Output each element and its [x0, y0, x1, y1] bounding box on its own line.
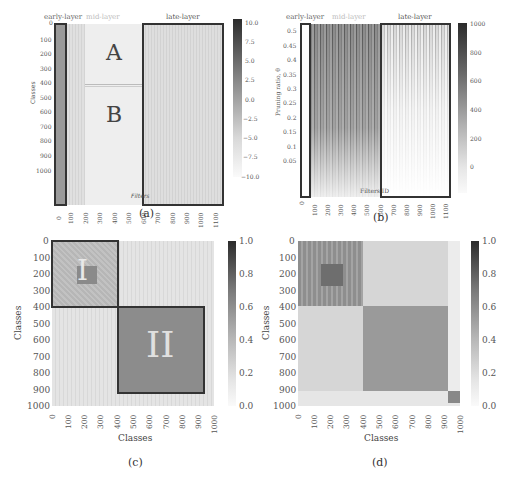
- xtick: 400: [350, 205, 357, 216]
- late-layer-label: late-layer: [166, 13, 200, 21]
- early-layer-box: [300, 23, 311, 198]
- late-layer-label: late-layer: [398, 13, 432, 21]
- ytick: 0: [289, 236, 295, 246]
- ytick: 0.25: [283, 99, 296, 106]
- ytick: 1000: [27, 401, 50, 411]
- ytick: 0.35: [283, 71, 296, 78]
- ylabel-a: Classes: [29, 81, 36, 104]
- xtick: 300: [342, 415, 351, 429]
- ytick: 600: [33, 335, 50, 345]
- heatmap-d: [298, 241, 460, 406]
- ytick: 800: [279, 368, 296, 378]
- xtick: 400: [113, 415, 122, 429]
- xtick: 100: [64, 415, 73, 429]
- region-i-label: I: [77, 254, 88, 287]
- xtick: 200: [80, 415, 89, 429]
- cbar-tick: −10.0: [241, 173, 259, 180]
- ytick: 300: [33, 286, 50, 296]
- colorbar-b: [458, 23, 467, 193]
- colorbar-c: [228, 241, 236, 406]
- block-3-strip-h: [298, 391, 460, 406]
- cbar-tick: 0.6: [239, 302, 253, 312]
- xtick: 400: [359, 415, 368, 429]
- ytick: 0.5: [287, 27, 297, 34]
- cbar-tick: −5.0: [243, 134, 258, 141]
- cbar-tick: 600: [470, 77, 481, 84]
- xtick: 1100: [442, 204, 449, 219]
- xtick: 0: [48, 414, 57, 419]
- ytick: 600: [279, 335, 296, 345]
- xtick: 700: [408, 415, 417, 429]
- xtick: 800: [424, 415, 433, 429]
- xtick: 500: [363, 205, 370, 216]
- xtick: 100: [310, 415, 319, 429]
- caption-c: (c): [128, 456, 143, 469]
- ytick: 500: [40, 94, 51, 101]
- ytick: 300: [40, 65, 51, 72]
- region-ii-label: II: [146, 324, 174, 365]
- ytick: 400: [279, 302, 296, 312]
- xtick: 300: [96, 415, 105, 429]
- xtick: 200: [82, 213, 89, 224]
- ytick: 700: [40, 123, 51, 130]
- cbar-tick: 1.0: [239, 236, 253, 246]
- cbar-tick: 0.0: [482, 401, 496, 411]
- xtick: 1100: [212, 213, 219, 228]
- ytick: 0: [43, 236, 49, 246]
- ytick: 0.3: [287, 85, 297, 92]
- xtick: 400: [111, 213, 118, 224]
- cbar-tick: 0.0: [239, 401, 253, 411]
- caption-b: (b): [373, 211, 389, 224]
- ytick: 700: [279, 352, 296, 362]
- xtick: 200: [324, 205, 331, 216]
- block-3-fill: [448, 391, 460, 403]
- colorbar-d: [471, 241, 479, 406]
- xtick: 500: [129, 415, 138, 429]
- region-b-label: B: [106, 102, 122, 127]
- xtick: 700: [162, 415, 171, 429]
- ytick: 0: [49, 19, 53, 26]
- cbar-tick: −2.5: [243, 115, 258, 122]
- late-layer-box: [380, 23, 451, 198]
- block-3-strip-v: [448, 241, 460, 406]
- ytick: 0.4: [287, 56, 297, 63]
- xtick: 600: [391, 415, 400, 429]
- xtick: 900: [440, 415, 449, 429]
- mid-layer-label: mid-layer: [86, 13, 120, 21]
- cbar-tick: 800: [470, 49, 481, 56]
- xtick: 1000: [210, 415, 219, 434]
- cbar-tick: 7.5: [245, 38, 255, 45]
- xtick: 600: [145, 415, 154, 429]
- ytick: 200: [33, 269, 50, 279]
- ytick: 500: [279, 319, 296, 329]
- xtick: 1000: [197, 213, 204, 228]
- cbar-tick: 5.0: [245, 57, 255, 64]
- region-a-label: A: [106, 40, 122, 65]
- ytick: 0.2: [287, 114, 297, 121]
- xlabel-c: Classes: [118, 433, 152, 443]
- cbar-tick: 1000: [470, 20, 485, 27]
- xtick: 100: [311, 205, 318, 216]
- ytick: 1000: [273, 401, 296, 411]
- cbar-tick: 0.4: [239, 335, 253, 345]
- cbar-tick: 0.0: [245, 96, 255, 103]
- offdiag-top: [363, 241, 448, 306]
- xtick: 1000: [456, 415, 465, 434]
- cbar-tick: 0.8: [482, 269, 496, 279]
- xtick: 300: [337, 205, 344, 216]
- ytick: 900: [279, 385, 296, 395]
- cbar-tick: 400: [470, 106, 481, 113]
- xtick: 900: [416, 205, 423, 216]
- cbar-tick: 1.0: [482, 236, 496, 246]
- xtick: 700: [390, 205, 397, 216]
- ytick: 700: [33, 352, 50, 362]
- cbar-tick: 0.2: [482, 368, 496, 378]
- caption-d: (d): [372, 456, 388, 469]
- xtick: 0: [298, 201, 305, 205]
- xtick: 700: [154, 213, 161, 224]
- xtick: 800: [403, 205, 410, 216]
- xtick: 300: [96, 213, 103, 224]
- ytick: 400: [33, 302, 50, 312]
- ytick: 1000: [36, 167, 51, 174]
- xlabel-b: Filters ID: [360, 187, 389, 194]
